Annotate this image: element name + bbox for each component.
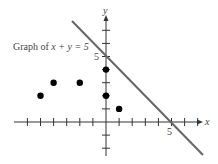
data-point — [103, 66, 109, 72]
data-point — [103, 93, 109, 99]
data-point — [37, 93, 43, 99]
x-axis-label: x — [204, 116, 210, 127]
data-point — [116, 106, 122, 112]
y-axis-label: y — [102, 5, 108, 16]
data-points — [37, 66, 122, 112]
graph-caption: Graph of x + y = 5 — [13, 41, 89, 52]
data-point — [50, 80, 56, 86]
caption-equation: x + y = 5 — [50, 41, 88, 52]
x-axis-arrow-icon — [197, 120, 203, 125]
x-intercept-label: 5 — [167, 126, 172, 137]
y-axis — [102, 18, 110, 156]
caption-prefix: Graph of — [13, 41, 51, 52]
line-x-plus-y-equals-5 — [72, 21, 203, 155]
y-intercept-label: 5 — [94, 51, 99, 62]
data-point — [77, 80, 83, 86]
graph-canvas: y x 5 5 Graph of x + y = 5 — [0, 0, 218, 164]
